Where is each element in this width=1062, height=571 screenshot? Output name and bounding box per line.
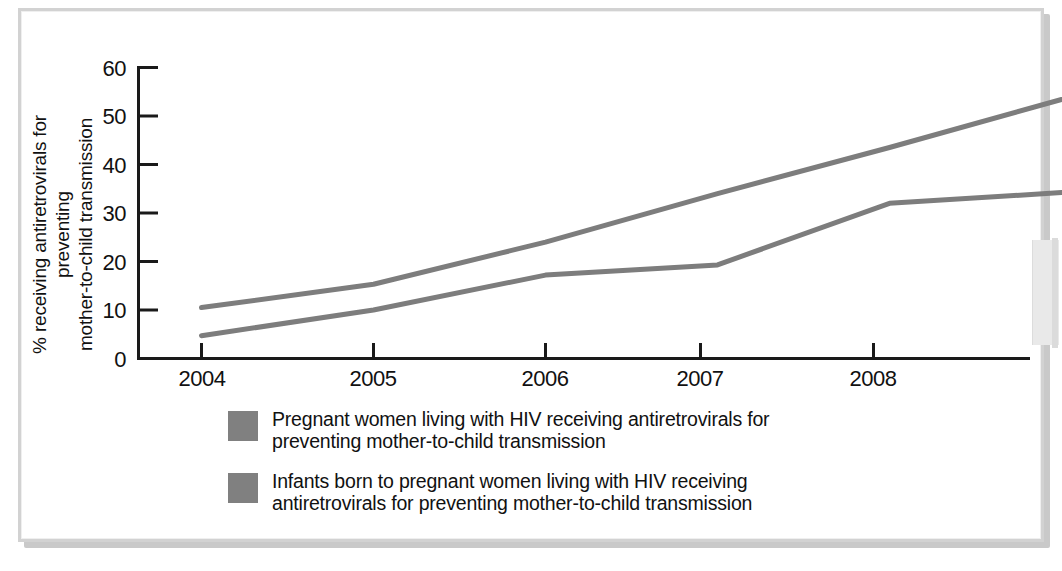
legend-label-line2: preventing mother-to-child transmission (272, 430, 769, 452)
x-axis-ticks (202, 343, 874, 359)
y-axis-ticks (138, 68, 158, 311)
legend-swatch-pregnant-women (228, 411, 258, 441)
line-chart: % receiving antiretrovirals for preventi… (0, 0, 1062, 571)
legend-swatch-infants (228, 473, 258, 503)
legend-label-line1: Pregnant women living with HIV receiving… (272, 408, 769, 430)
legend-item-pregnant-women: Pregnant women living with HIV receiving… (228, 408, 868, 452)
legend-label-pregnant-women: Pregnant women living with HIV receiving… (272, 408, 769, 452)
scanned-page: % receiving antiretrovirals for preventi… (0, 0, 1062, 571)
series-line-infants (202, 193, 1062, 336)
series-line-pregnant-women (202, 100, 1062, 308)
legend-label-line2: antiretrovirals for preventing mother-to… (272, 492, 752, 514)
legend-label-infants: Infants born to pregnant women living wi… (272, 470, 752, 514)
legend-label-line1: Infants born to pregnant women living wi… (272, 470, 752, 492)
legend-item-infants: Infants born to pregnant women living wi… (228, 470, 868, 514)
chart-legend: Pregnant women living with HIV receiving… (228, 408, 868, 532)
